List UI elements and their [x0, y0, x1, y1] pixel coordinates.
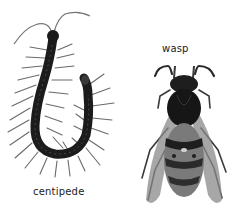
wasp-label: wasp: [162, 43, 189, 54]
centipede-figure: [8, 12, 114, 177]
wasp-figure: [142, 66, 226, 203]
centipede-label: centipede: [33, 186, 85, 197]
image-canvas: wasp centipede: [0, 0, 237, 219]
